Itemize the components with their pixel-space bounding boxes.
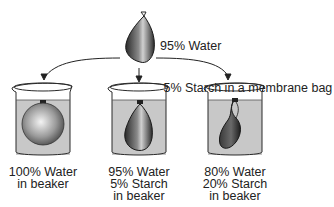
caption-beaker-right: 80% Water 20% Starch in beaker xyxy=(190,166,280,202)
bag-water-text: 95% Water xyxy=(160,39,332,53)
beaker-center-icon xyxy=(108,83,168,155)
bag-contents-label: 95% Water 5% Starch in a membrane bag xyxy=(160,11,332,109)
membrane-bag-icon xyxy=(126,12,155,63)
beaker-left-icon xyxy=(12,83,72,155)
bag-starch-text: 5% Starch in a membrane bag xyxy=(160,81,332,95)
caption-line: in beaker xyxy=(0,178,88,190)
caption-beaker-left: 100% Water in beaker xyxy=(0,166,88,190)
caption-line: in beaker xyxy=(94,190,184,202)
caption-beaker-center: 95% Water 5% Starch in beaker xyxy=(94,166,184,202)
caption-line: in beaker xyxy=(190,190,280,202)
arrow-left-icon xyxy=(41,58,120,80)
arrow-center-icon xyxy=(136,68,142,82)
